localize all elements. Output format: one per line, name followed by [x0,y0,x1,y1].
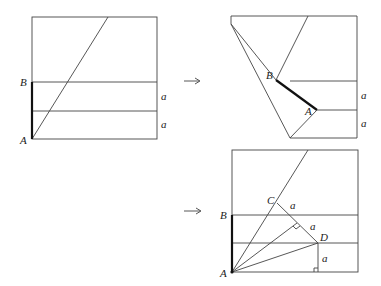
panel-3-construction: B A C D a a a [219,150,358,279]
label-a-length-1: a [361,89,367,101]
segment-ad [232,243,318,272]
origami-fold-diagram: B A a a B A a a [0,0,381,286]
panel-1-square: B A a a [19,17,167,146]
label-a: A [19,134,27,146]
arrow-1 [184,78,200,84]
label-a-length-vertical: a [322,252,328,264]
panel-2-folded: B A a a [231,16,367,138]
label-c: C [267,194,275,206]
label-b: B [20,76,27,88]
diagonal-crease [32,17,108,139]
label-a-length-cd-lower: a [310,220,316,232]
point-a-dot [230,270,233,273]
arrow-2 [184,208,201,214]
label-a: A [304,105,312,117]
label-b: B [266,69,273,81]
diagonal-crease [232,150,308,272]
fold-edge-outer [231,24,290,138]
label-a-length-2: a [361,117,367,129]
right-angle-mark-cd [293,226,300,229]
fold-edge-lower [290,110,317,138]
bisector-to-cd [232,223,297,272]
diagonal-crease [276,16,308,80]
label-d: D [319,231,328,243]
label-b: B [220,209,227,221]
label-a-length-cd-upper: a [290,199,296,211]
label-a-length-2: a [161,118,167,130]
label-a: A [219,267,227,279]
square-outline [232,150,358,272]
square-outline [32,17,157,139]
right-angle-mark-bottom [314,268,318,272]
label-a-length-1: a [161,90,167,102]
